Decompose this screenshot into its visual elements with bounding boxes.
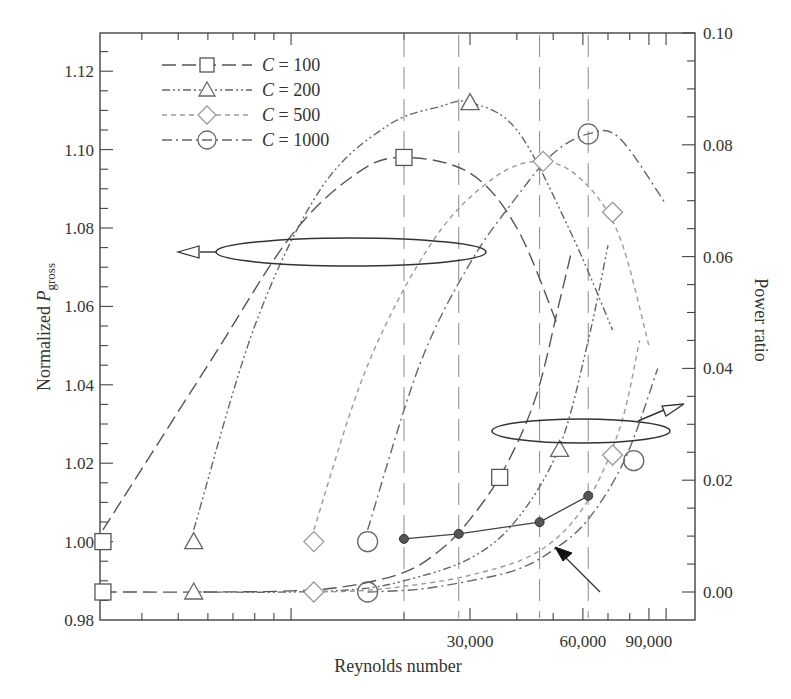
optimum-point xyxy=(399,534,408,543)
triangle-marker-icon xyxy=(199,82,215,96)
square-marker-icon xyxy=(200,58,214,72)
legend-label: C = 1000 xyxy=(262,130,329,150)
y-tick-label: 1.10 xyxy=(64,141,94,160)
legend-label-value: = 100 xyxy=(274,55,320,75)
y-axis-title-main: Normalized xyxy=(34,301,54,390)
diamond-marker-icon xyxy=(603,445,623,465)
power-ratio-curve xyxy=(103,251,572,592)
y2-axis-title: Power ratio xyxy=(751,278,771,361)
y-axis-title-subscript: gross xyxy=(43,263,58,290)
legend-label-value: = 500 xyxy=(274,105,320,125)
y2-tick-label: 0.10 xyxy=(703,24,733,43)
triangle-marker-icon xyxy=(185,533,203,549)
diamond-marker-icon xyxy=(603,202,623,222)
optimum-points xyxy=(399,491,592,543)
x-tick-label: 90,000 xyxy=(626,632,673,651)
y2-axis-ticks: 0.000.020.040.060.080.10 xyxy=(682,24,733,602)
square-marker-icon xyxy=(492,469,508,485)
legend-label: C = 500 xyxy=(262,105,320,125)
optimum-point xyxy=(454,529,463,538)
diamond-marker-icon xyxy=(304,532,324,552)
right-axis-ellipse xyxy=(492,419,670,443)
x-tick-label: 30,000 xyxy=(447,632,494,651)
legend-label-value: = 200 xyxy=(274,80,320,100)
square-marker-icon xyxy=(95,584,111,600)
power-ratio-curve xyxy=(314,340,640,592)
y-axis-title-italic: P xyxy=(34,290,54,302)
legend: C = 100C = 200C = 500C = 1000 xyxy=(162,55,329,150)
right-arrow-shaft xyxy=(638,410,664,421)
legend-label-value: = 1000 xyxy=(274,130,329,150)
y2-tick-label: 0.06 xyxy=(703,248,733,267)
triangle-marker-icon xyxy=(461,94,479,110)
diamond-marker-icon xyxy=(198,106,216,124)
square-marker-icon xyxy=(95,534,111,550)
y-tick-label: 0.98 xyxy=(64,611,94,630)
diamond-marker-icon xyxy=(533,151,553,171)
plot-frame xyxy=(100,33,695,620)
circle-marker-icon xyxy=(624,451,644,471)
square-marker-icon xyxy=(396,149,412,165)
y-axis-title: Normalized Pgross xyxy=(34,263,58,391)
y-tick-label: 1.06 xyxy=(64,297,94,316)
y-tick-label: 1.00 xyxy=(64,533,94,552)
optimum-point xyxy=(535,518,544,527)
optimum-locus-line xyxy=(404,496,588,539)
plot-border xyxy=(100,33,695,620)
gross-curve xyxy=(314,161,649,530)
legend-label: C = 200 xyxy=(262,80,320,100)
right-arrow-head-icon xyxy=(662,404,684,416)
power-ratio-curve xyxy=(368,368,658,592)
optimum-point xyxy=(584,491,593,500)
y2-tick-label: 0.00 xyxy=(703,583,733,602)
y-tick-label: 1.04 xyxy=(64,376,94,395)
gross-curve xyxy=(368,130,666,529)
y2-tick-label: 0.02 xyxy=(703,471,733,490)
optimum-arrow-shaft xyxy=(565,557,600,592)
circle-marker-icon xyxy=(358,532,378,552)
y-tick-label: 1.08 xyxy=(64,219,94,238)
triangle-marker-icon xyxy=(185,583,203,599)
y-tick-label: 1.02 xyxy=(64,454,94,473)
y-tick-label: 1.12 xyxy=(64,62,94,81)
x-axis-title: Reynolds number xyxy=(334,656,462,676)
gross-power-curves xyxy=(103,101,666,530)
x-tick-label: 60,000 xyxy=(560,632,607,651)
diamond-marker-icon xyxy=(304,582,324,602)
left-arrow-head-icon xyxy=(178,246,199,258)
chart: 30,00060,00090,000 0.981.001.021.041.061… xyxy=(0,0,791,699)
optimum-arrow-head-icon xyxy=(555,547,572,561)
left-axis-ellipse xyxy=(216,238,486,266)
vertical-reference-lines xyxy=(404,35,588,618)
y2-tick-label: 0.08 xyxy=(703,136,733,155)
legend-label: C = 100 xyxy=(262,55,320,75)
y2-tick-label: 0.04 xyxy=(703,359,733,378)
gross-curve xyxy=(103,157,556,529)
